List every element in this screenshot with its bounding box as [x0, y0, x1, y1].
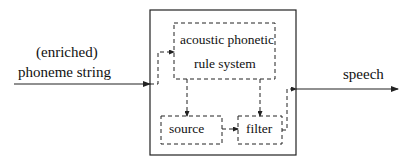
input-label-line1: (enriched) — [36, 44, 98, 61]
input-label-line2: phoneme string — [18, 64, 111, 81]
filter-to-output-path — [282, 89, 296, 130]
output-label: speech — [343, 66, 384, 83]
rule-system-label-line2: rule system — [194, 56, 256, 72]
input-to-rules-path — [150, 52, 174, 84]
rule-system-label-line1: acoustic phonetic — [180, 32, 274, 48]
filter-label: filter — [246, 121, 272, 137]
source-label: source — [169, 121, 204, 137]
